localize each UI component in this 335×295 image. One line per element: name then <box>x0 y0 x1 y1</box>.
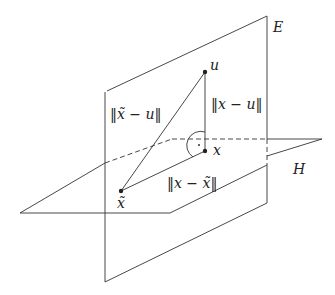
segment-xtilde-u <box>121 72 205 191</box>
plane-h-right-edge <box>267 139 322 156</box>
right-angle-dot <box>198 144 200 146</box>
label-point-x: x <box>213 143 221 157</box>
point-u <box>203 70 207 74</box>
label-plane-h: H <box>293 162 305 176</box>
label-point-x-tilde: x̃ <box>117 196 125 210</box>
plane-h-outline <box>20 163 267 213</box>
label-dist-x-xtilde: ‖x − x̃‖ <box>167 176 217 190</box>
label-dist-x-u: ‖x − u‖ <box>211 97 263 111</box>
label-dist-xtilde-u: ‖x̃ − u‖ <box>110 107 162 121</box>
point-x <box>203 149 207 153</box>
right-angle-marker <box>187 131 205 157</box>
plane-h-back-edge-hidden <box>105 139 172 163</box>
diagram-canvas <box>0 0 335 295</box>
label-plane-e: E <box>273 20 283 34</box>
point-x-tilde <box>119 189 123 193</box>
label-point-u: u <box>210 58 219 72</box>
